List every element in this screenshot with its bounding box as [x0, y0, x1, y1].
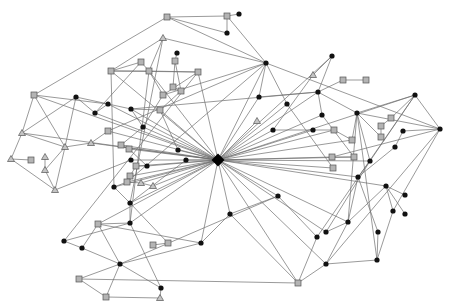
square-node	[172, 58, 178, 64]
square-node	[126, 146, 132, 152]
graph-edge	[326, 222, 348, 264]
triangle-node	[157, 295, 164, 301]
circle-node	[224, 30, 229, 35]
square-node	[150, 242, 156, 248]
graph-edge	[34, 95, 65, 147]
graph-edge	[218, 160, 298, 283]
circle-node	[174, 50, 179, 55]
graph-edge	[55, 147, 65, 190]
circle-node	[402, 192, 407, 197]
triangle-node	[160, 35, 167, 41]
graph-edge	[82, 224, 98, 248]
triangle-node	[42, 154, 49, 160]
graph-edge	[130, 160, 218, 203]
graph-edge	[227, 16, 266, 63]
triangle-node	[19, 130, 26, 136]
circle-node	[402, 211, 407, 216]
graph-edge	[318, 92, 322, 115]
graph-edge	[348, 113, 357, 222]
square-node	[127, 173, 133, 179]
graph-edge	[149, 38, 163, 71]
square-node	[108, 68, 114, 74]
graph-edge	[111, 71, 114, 187]
square-node	[170, 84, 176, 90]
circle-node	[310, 127, 315, 132]
square-node	[340, 77, 346, 83]
graph-edge	[322, 115, 354, 157]
graph-edge	[278, 196, 317, 237]
graph-edge	[131, 109, 143, 127]
graph-edge	[218, 160, 278, 196]
graph-edge	[357, 113, 377, 260]
graph-edge	[298, 237, 317, 283]
graph-edge	[230, 214, 298, 283]
graph-edge	[218, 160, 370, 161]
graph-edge	[64, 241, 82, 248]
square-node	[138, 59, 144, 65]
circle-node	[117, 261, 122, 266]
graph-edge	[352, 113, 357, 140]
circle-node	[383, 183, 388, 188]
edge-layer	[11, 14, 440, 298]
graph-edge	[358, 177, 378, 232]
circle-node	[392, 144, 397, 149]
graph-edge	[11, 159, 55, 190]
square-node	[363, 77, 369, 83]
graph-edge	[22, 95, 34, 133]
circle-node	[127, 200, 132, 205]
circle-node	[227, 211, 232, 216]
circle-node	[61, 238, 66, 243]
graph-edge	[218, 160, 326, 264]
graph-edge	[377, 211, 393, 260]
circle-node	[236, 11, 241, 16]
circle-node	[400, 128, 405, 133]
circle-node	[158, 285, 163, 290]
graph-edge	[218, 130, 313, 160]
triangle-node	[52, 187, 59, 193]
circle-node	[355, 174, 360, 179]
circle-node	[128, 106, 133, 111]
square-node	[378, 123, 384, 129]
circle-node	[315, 89, 320, 94]
graph-edge	[98, 224, 201, 243]
square-node	[103, 294, 109, 300]
square-node	[329, 154, 335, 160]
circle-node	[92, 110, 97, 115]
graph-edge	[120, 243, 201, 264]
circle-node	[412, 92, 417, 97]
graph-edge	[106, 264, 120, 297]
circle-node	[284, 101, 289, 106]
graph-edge	[173, 61, 175, 87]
graph-edge	[79, 264, 120, 279]
circle-node	[175, 147, 180, 152]
graph-edge	[65, 143, 91, 147]
graph-edge	[326, 129, 440, 264]
square-node	[157, 107, 163, 113]
graph-edge	[348, 177, 358, 222]
circle-node	[319, 112, 324, 117]
square-node	[31, 92, 37, 98]
circle-node	[390, 208, 395, 213]
square-node	[388, 115, 394, 121]
graph-edge	[160, 110, 178, 150]
circle-node	[375, 229, 380, 234]
square-node	[105, 128, 111, 134]
graph-edge	[98, 224, 120, 264]
square-node	[118, 142, 124, 148]
circle-node	[354, 110, 359, 115]
graph-edge	[167, 16, 227, 17]
graph-edge	[393, 129, 440, 211]
circle-node	[374, 257, 379, 262]
square-node	[224, 13, 230, 19]
square-node	[295, 280, 301, 286]
square-node	[164, 14, 170, 20]
circle-node	[437, 126, 442, 131]
graph-edge	[34, 95, 108, 104]
graph-edge	[98, 160, 218, 224]
graph-edge	[108, 63, 266, 131]
graph-edge	[79, 279, 106, 297]
circle-node	[323, 261, 328, 266]
square-node	[330, 165, 336, 171]
circle-node	[140, 124, 145, 129]
graph-edge	[218, 63, 266, 160]
